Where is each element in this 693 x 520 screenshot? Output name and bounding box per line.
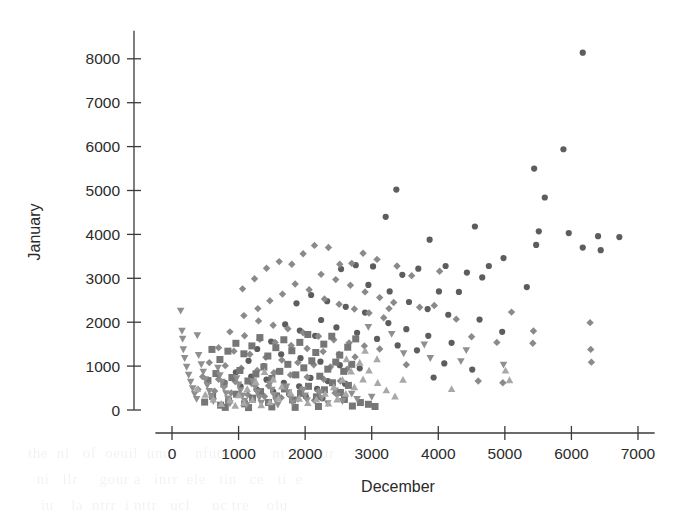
data-point-diamond — [240, 312, 247, 319]
data-point-diamond — [215, 344, 222, 351]
data-point-circle — [580, 244, 586, 250]
x-tick-label: 5000 — [488, 445, 523, 462]
data-point-diamond — [393, 262, 400, 269]
data-point-diamond — [376, 345, 383, 352]
data-point-triangle-up — [356, 359, 364, 366]
data-point-triangle-down — [178, 328, 186, 335]
data-point-circle — [616, 234, 622, 240]
data-point-square — [248, 342, 255, 349]
data-point-triangle-down — [180, 346, 188, 353]
data-point-circle — [443, 263, 449, 269]
data-point-square — [201, 399, 208, 406]
data-point-circle — [399, 272, 405, 278]
data-point-square — [316, 373, 323, 380]
data-point-triangle-down — [462, 347, 470, 354]
data-point-square — [296, 339, 303, 346]
data-point-diamond — [222, 362, 229, 369]
data-point-diamond — [239, 285, 246, 292]
data-point-diamond — [275, 258, 282, 265]
data-point-square — [256, 334, 263, 341]
x-tick-label: 2000 — [288, 445, 323, 462]
data-point-triangle-down — [368, 394, 376, 401]
data-point-circle — [383, 214, 389, 220]
data-point-diamond — [453, 315, 460, 322]
data-point-diamond — [493, 339, 500, 346]
data-point-circle — [317, 359, 323, 365]
data-point-circle — [318, 317, 324, 323]
scatter-plot-figure: 0100020003000400050006000700080000100020… — [0, 0, 693, 520]
data-point-diamond — [269, 322, 276, 329]
data-point-circle — [479, 274, 485, 280]
tick-labels-group: 0100020003000400050006000700080000100020… — [86, 50, 656, 462]
y-tick-label: 6000 — [86, 138, 121, 155]
data-point-diamond — [332, 276, 339, 283]
data-point-triangle-up — [343, 355, 351, 362]
data-point-diamond — [291, 280, 298, 287]
data-point-square — [349, 403, 356, 410]
data-point-diamond — [508, 308, 515, 315]
data-point-circle — [431, 374, 437, 380]
data-point-triangle-down — [500, 362, 508, 369]
data-point-circle — [427, 237, 433, 243]
data-point-diamond — [376, 294, 383, 301]
data-point-circle — [464, 269, 470, 275]
data-point-circle — [499, 329, 505, 335]
data-point-triangle-up — [502, 367, 510, 374]
data-point-circle — [245, 358, 251, 364]
data-point-square — [340, 368, 347, 375]
data-point-circle — [598, 247, 604, 253]
data-point-triangle-up — [448, 385, 456, 392]
x-tick-label: 3000 — [354, 445, 389, 462]
data-point-square — [336, 352, 343, 359]
data-point-triangle-up — [365, 367, 373, 374]
data-point-triangle-up — [506, 376, 514, 383]
data-point-triangle-up — [359, 375, 367, 382]
data-point-circle — [415, 266, 421, 272]
data-point-square — [224, 348, 231, 355]
data-point-triangle-down — [197, 361, 205, 368]
data-point-triangle-up — [383, 386, 391, 393]
data-point-circle — [425, 306, 431, 312]
data-point-circle — [566, 230, 572, 236]
y-tick-label: 8000 — [86, 50, 121, 67]
data-point-diamond — [311, 242, 318, 249]
data-point-triangle-down — [199, 369, 207, 376]
data-point-diamond — [431, 302, 438, 309]
data-point-square — [312, 349, 319, 356]
data-point-triangle-up — [243, 385, 251, 392]
data-point-square — [365, 401, 372, 408]
x-tick-label: 6000 — [554, 445, 589, 462]
data-points-group — [177, 50, 623, 412]
data-point-diamond — [499, 379, 506, 386]
data-point-square — [320, 341, 327, 348]
data-point-diamond — [266, 297, 273, 304]
data-point-diamond — [303, 345, 310, 352]
data-point-square — [280, 336, 287, 343]
data-point-triangle-down — [426, 355, 434, 362]
data-point-triangle-down — [183, 364, 191, 371]
data-point-circle — [357, 365, 363, 371]
data-point-triangle-up — [257, 401, 265, 408]
data-point-circle — [445, 312, 451, 318]
x-axis-title: December — [361, 478, 435, 495]
data-point-triangle-down — [400, 350, 408, 357]
data-point-diamond — [385, 305, 392, 312]
scatter-plot-svg: 0100020003000400050006000700080000100020… — [0, 0, 693, 520]
data-point-square — [315, 403, 322, 410]
ticks-group — [127, 59, 638, 440]
data-point-circle — [393, 187, 399, 193]
data-point-triangle-down — [179, 336, 187, 343]
data-point-diamond — [530, 327, 537, 334]
data-point-triangle-down — [457, 358, 465, 365]
data-point-square — [324, 366, 331, 373]
y-tick-label: 2000 — [86, 314, 121, 331]
data-point-triangle-down — [187, 379, 195, 386]
data-point-circle — [374, 336, 380, 342]
axes-group — [134, 31, 655, 433]
data-point-diamond — [279, 290, 286, 297]
data-point-square — [372, 403, 379, 410]
data-point-diamond — [335, 301, 342, 308]
x-tick-label: 4000 — [421, 445, 456, 462]
data-point-diamond — [255, 317, 262, 324]
data-point-triangle-up — [399, 376, 407, 383]
